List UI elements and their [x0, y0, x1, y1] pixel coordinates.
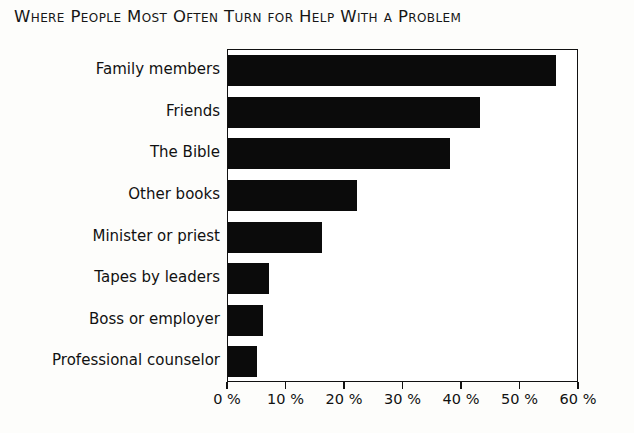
x-tick-mark: [402, 382, 404, 389]
category-label: Minister or priest: [5, 216, 227, 258]
bar: [228, 263, 269, 294]
chart-title: Where People Most Often Turn for Help Wi…: [14, 7, 614, 26]
x-tick-mark: [343, 382, 345, 389]
plot-area: [227, 49, 578, 382]
bar: [228, 138, 450, 169]
x-tick-mark: [577, 382, 579, 389]
x-tick-label: 0 %: [213, 391, 241, 407]
bar-chart-figure: Where People Most Often Turn for Help Wi…: [0, 0, 634, 433]
bar-band: [228, 258, 577, 300]
category-label: Boss or employer: [5, 299, 227, 341]
bar-band: [228, 341, 577, 383]
x-tick-mark: [519, 382, 521, 389]
x-tick-label: 60 %: [560, 391, 597, 407]
x-tick-label: 50 %: [501, 391, 538, 407]
x-axis: 0 %10 %20 %30 %40 %50 %60 %: [227, 382, 578, 430]
bar-band: [228, 50, 577, 92]
x-tick-label: 30 %: [384, 391, 421, 407]
x-tick-label: 10 %: [267, 391, 304, 407]
category-label: Tapes by leaders: [5, 257, 227, 299]
category-label: Professional counselor: [5, 340, 227, 382]
bar: [228, 346, 257, 377]
category-axis-labels: Family membersFriendsThe BibleOther book…: [0, 49, 227, 382]
bar: [228, 305, 263, 336]
bar: [228, 180, 357, 211]
bar-band: [228, 300, 577, 342]
bar-band: [228, 217, 577, 259]
x-tick-mark: [285, 382, 287, 389]
bar: [228, 97, 480, 128]
bar-band: [228, 92, 577, 134]
bar: [228, 222, 322, 253]
x-tick-label: 40 %: [443, 391, 480, 407]
x-tick-mark: [460, 382, 462, 389]
x-tick-label: 20 %: [326, 391, 363, 407]
category-label: Friends: [5, 91, 227, 133]
bar: [228, 55, 556, 86]
category-label: Other books: [5, 174, 227, 216]
category-label: The Bible: [5, 132, 227, 174]
x-tick-mark: [226, 382, 228, 389]
category-label: Family members: [5, 49, 227, 91]
bar-band: [228, 133, 577, 175]
bar-band: [228, 175, 577, 217]
